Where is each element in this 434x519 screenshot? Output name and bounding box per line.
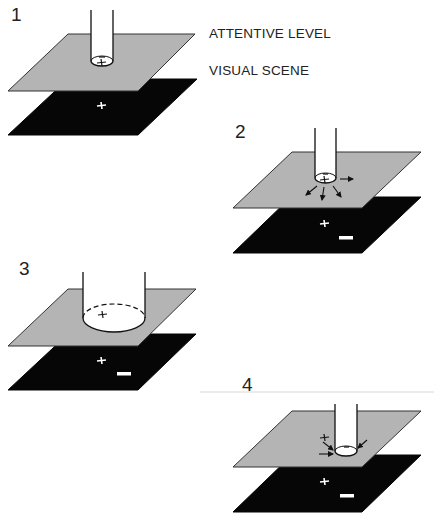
scene-mark-minus <box>117 372 131 376</box>
step-2: 2 <box>233 121 421 253</box>
attention-tube-wide <box>83 272 145 332</box>
scene-mark-plus <box>324 220 325 227</box>
legend-visual-scene: VISUAL SCENE <box>209 63 309 78</box>
step-3: 3 <box>8 258 196 390</box>
scene-mark-minus <box>339 236 353 240</box>
scene-mark-plus <box>324 478 325 485</box>
scene-mark-plus <box>101 102 102 109</box>
step-4: 4 <box>233 374 421 512</box>
attention-tube <box>315 128 336 183</box>
scene-mark-minus <box>340 494 354 498</box>
step-number: 3 <box>19 258 30 279</box>
scene-mark-plus <box>101 357 102 364</box>
step-number: 2 <box>235 121 246 142</box>
step-number: 1 <box>11 4 22 25</box>
step-number: 4 <box>242 374 253 395</box>
legend-attentive-level: ATTENTIVE LEVEL <box>209 26 331 41</box>
attention-diagram: ATTENTIVE LEVEL VISUAL SCENE 1 2 <box>0 0 434 519</box>
step-1: 1 <box>8 4 197 135</box>
attention-tube <box>335 404 357 456</box>
